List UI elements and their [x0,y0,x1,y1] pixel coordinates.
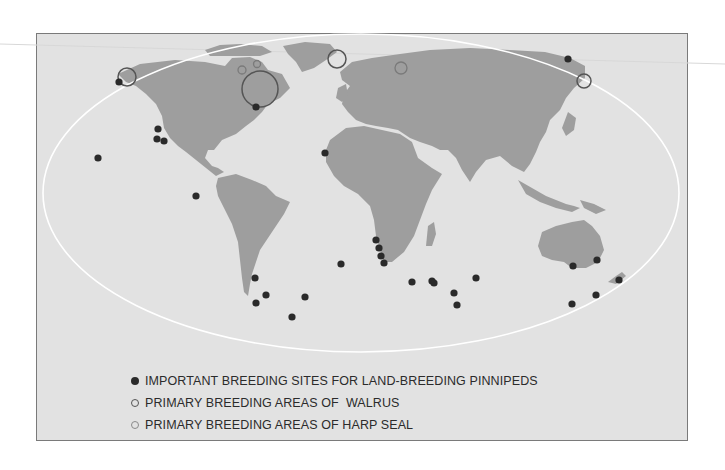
breeding-site-dot [262,291,269,298]
breeding-site-dot [569,262,576,269]
walrus-area-marker [328,50,346,68]
north-america [118,57,290,176]
indonesia [518,180,580,212]
breeding-site-dot [337,260,344,267]
breeding-site-dot [321,149,328,156]
breeding-site-dot [472,274,479,281]
new-guinea [580,200,606,214]
breeding-site-dot [301,293,308,300]
breeding-site-dot [252,299,259,306]
breeding-site-dot [408,278,415,285]
legend-label: PRIMARY BREEDING AREAS OF HARP SEAL [145,418,413,432]
legend-item-breeding-sites: IMPORTANT BREEDING SITES FOR LAND-BREEDI… [131,370,538,392]
breeding-site-dot [154,125,161,132]
breeding-site-dot [568,300,575,307]
madagascar [426,222,436,246]
breeding-site-dot [615,276,622,283]
legend-item-harp-seal: PRIMARY BREEDING AREAS OF HARP SEAL [131,414,538,436]
africa [326,126,442,262]
breeding-site-dot [251,274,258,281]
filled-dot-icon [131,377,139,385]
breeding-site-dot [115,78,122,85]
legend-label: PRIMARY BREEDING AREAS OF WALRUS [145,396,400,410]
breeding-site-dot [252,103,259,110]
open-circle-light-icon [131,421,139,429]
breeding-site-dot [372,236,379,243]
breeding-site-dot [450,289,457,296]
breeding-site-dot [160,137,167,144]
breeding-site-dot [288,313,295,320]
legend-label: IMPORTANT BREEDING SITES FOR LAND-BREEDI… [145,374,538,388]
land-masses [118,42,626,296]
breeding-site-dot [453,301,460,308]
open-circle-dark-icon [131,399,139,407]
japan [562,112,576,136]
breeding-site-dot [192,192,199,199]
breeding-site-dot [564,55,571,62]
breeding-site-dot [593,256,600,263]
breeding-site-dot [377,252,384,259]
breeding-site-dot [380,259,387,266]
breeding-site-dot [94,154,101,161]
breeding-site-dot [592,291,599,298]
breeding-site-dot [430,279,437,286]
breeding-site-dot [375,244,382,251]
map-legend: IMPORTANT BREEDING SITES FOR LAND-BREEDI… [131,370,538,436]
legend-item-walrus: PRIMARY BREEDING AREAS OF WALRUS [131,392,538,414]
breeding-site-dot [153,135,160,142]
